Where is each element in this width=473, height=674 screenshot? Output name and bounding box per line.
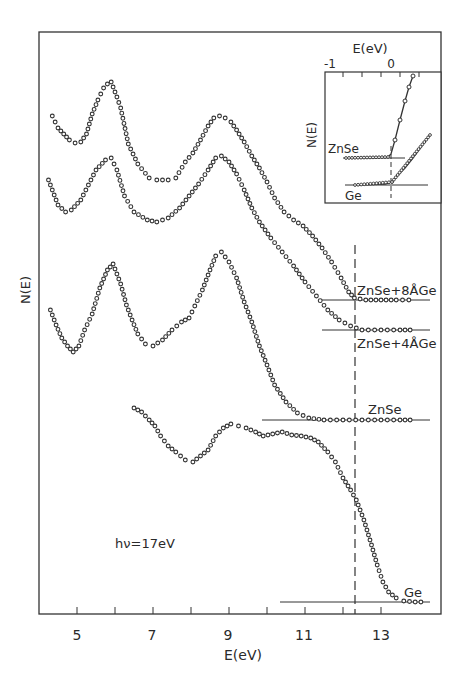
data-point	[115, 272, 119, 276]
data-point	[364, 523, 368, 527]
data-point	[214, 254, 218, 258]
data-point	[87, 183, 91, 187]
data-point	[206, 124, 210, 128]
data-point	[187, 194, 191, 198]
inset-plot: E(eV) -1 0 N(E) ZnSe Ge	[305, 41, 441, 203]
data-point	[115, 95, 119, 99]
data-point	[339, 471, 343, 475]
data-point	[244, 193, 248, 197]
data-point	[285, 432, 289, 436]
data-point	[86, 127, 90, 131]
data-point	[330, 311, 334, 315]
data-point	[50, 188, 54, 192]
data-point	[354, 418, 358, 422]
data-point	[84, 188, 88, 192]
data-point	[221, 426, 225, 430]
data-point	[323, 447, 327, 451]
data-point	[140, 337, 144, 341]
data-point	[268, 185, 272, 189]
data-point	[50, 114, 54, 118]
data-point	[79, 339, 83, 343]
data-point	[141, 215, 145, 219]
data-point	[52, 318, 56, 322]
data-point	[299, 434, 303, 438]
inset-x-tick-0: 0	[387, 57, 395, 71]
data-point	[334, 315, 338, 319]
data-point	[204, 129, 208, 133]
data-point	[132, 323, 136, 327]
data-point	[97, 165, 101, 169]
data-point	[235, 276, 239, 280]
data-point	[190, 310, 194, 314]
data-point	[344, 480, 348, 484]
data-point	[364, 298, 368, 302]
data-point	[93, 302, 97, 306]
x-tick-labels: 5 7 9 11 13	[73, 627, 390, 643]
data-point	[147, 176, 151, 180]
data-point	[174, 209, 178, 213]
data-point	[144, 171, 148, 175]
inset-y-label: N(E)	[305, 122, 319, 148]
data-point	[316, 440, 320, 444]
data-point	[385, 328, 389, 332]
data-point	[175, 324, 179, 328]
data-point	[336, 271, 340, 275]
data-point	[240, 136, 244, 140]
data-point	[111, 262, 115, 266]
label-ge: Ge	[404, 585, 422, 600]
data-point	[156, 429, 160, 433]
data-point	[52, 193, 56, 197]
data-point	[408, 328, 412, 332]
data-point	[311, 289, 315, 293]
data-point	[343, 321, 347, 325]
data-point	[398, 418, 402, 422]
data-point	[123, 298, 127, 302]
data-point	[166, 444, 170, 448]
data-point	[178, 206, 182, 210]
data-point	[220, 250, 224, 254]
data-point	[121, 189, 125, 193]
data-point	[375, 563, 379, 567]
data-point	[120, 287, 124, 291]
data-point	[258, 220, 262, 224]
data-point	[387, 590, 391, 594]
data-point	[184, 198, 188, 202]
data-point	[280, 250, 284, 254]
data-point	[223, 255, 227, 259]
data-point	[303, 280, 307, 284]
data-point	[136, 162, 140, 166]
data-point	[209, 120, 213, 124]
data-point	[336, 465, 340, 469]
data-point	[88, 317, 92, 321]
data-point	[187, 316, 191, 320]
data-point	[56, 327, 60, 331]
data-point	[206, 273, 210, 277]
data-point	[208, 268, 212, 272]
data-point	[369, 298, 373, 302]
data-point	[318, 299, 322, 303]
data-point	[273, 241, 277, 245]
data-point	[269, 373, 273, 377]
data-point	[181, 202, 185, 206]
data-point	[155, 178, 159, 182]
data-point	[261, 354, 265, 358]
data-point	[304, 435, 308, 439]
data-point	[191, 460, 195, 464]
data-point	[292, 407, 296, 411]
data-point	[170, 447, 174, 451]
label-znse-8a-ge: ZnSe+8ÅGe	[357, 283, 437, 298]
data-point	[342, 281, 346, 285]
data-point	[379, 328, 383, 332]
data-point	[195, 299, 199, 303]
data-point	[54, 198, 58, 202]
data-point	[183, 160, 187, 164]
data-point	[385, 418, 389, 422]
data-point	[202, 283, 206, 287]
data-point	[407, 298, 411, 302]
data-point	[211, 160, 215, 164]
data-point	[150, 219, 154, 223]
data-point	[239, 291, 243, 295]
data-point	[277, 245, 281, 249]
data-point	[100, 282, 104, 286]
data-point	[129, 147, 133, 151]
